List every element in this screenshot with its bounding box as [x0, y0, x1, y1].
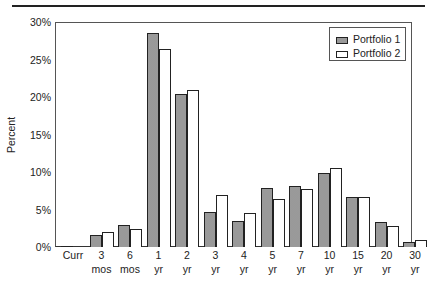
bar-portfolio-1: [61, 246, 73, 247]
x-tick-label: 3mos: [87, 248, 117, 276]
bar-portfolio-1: [204, 212, 216, 247]
bar-portfolio-2: [358, 197, 370, 247]
x-tick-label: 6mos: [115, 248, 145, 276]
y-axis-label: Percent: [5, 117, 17, 153]
x-tick-label: 1yr: [144, 248, 174, 276]
x-tick-label: 20yr: [372, 248, 402, 276]
y-tick-label: 10%: [20, 166, 51, 178]
hollow-swatch-icon: [336, 51, 348, 58]
x-tick-label: 4yr: [229, 248, 259, 276]
x-tick-label: 10yr: [315, 248, 345, 276]
bar-portfolio-2: [330, 168, 342, 247]
bar-portfolio-1: [147, 33, 159, 247]
bar-portfolio-2: [273, 199, 285, 247]
bar-portfolio-1: [175, 94, 187, 247]
bar-portfolio-2: [415, 240, 427, 247]
bar-portfolio-2: [130, 229, 142, 247]
bar-portfolio-1: [289, 186, 301, 247]
bar-portfolio-2: [244, 213, 256, 248]
legend-item-portfolio-2: Portfolio 2: [336, 47, 400, 59]
crosshatch-swatch-icon: [336, 37, 348, 44]
bar-portfolio-1: [375, 222, 387, 247]
y-tick-label: 15%: [20, 129, 51, 141]
x-tick-label: 15yr: [343, 248, 373, 276]
legend: Portfolio 1 Portfolio 2: [329, 27, 406, 61]
bar-portfolio-1: [232, 221, 244, 247]
bar-portfolio-1: [90, 235, 102, 247]
x-tick-label: 2yr: [172, 248, 202, 276]
y-tick-label: 30%: [20, 16, 51, 28]
bar-portfolio-2: [187, 90, 199, 247]
x-tick-label: 5yr: [258, 248, 288, 276]
y-tick-label: 25%: [20, 54, 51, 66]
top-rule: [12, 5, 425, 7]
y-tick-label: 0%: [20, 241, 51, 253]
bar-portfolio-1: [403, 242, 415, 247]
bar-portfolio-1: [346, 197, 358, 247]
bar-portfolio-2: [216, 195, 228, 248]
x-tick-label: 7yr: [286, 248, 316, 276]
legend-item-portfolio-1: Portfolio 1: [336, 33, 400, 45]
bar-portfolio-2: [387, 226, 399, 247]
bar-portfolio-1: [261, 188, 273, 247]
x-tick-label: Curr: [58, 248, 88, 276]
bar-portfolio-1: [318, 173, 330, 247]
y-tick-label: 20%: [20, 91, 51, 103]
bar-portfolio-2: [159, 49, 171, 247]
x-tick-label: 3yr: [201, 248, 231, 276]
y-tick-label: 5%: [20, 204, 51, 216]
bar-portfolio-2: [301, 189, 313, 247]
x-tick-label: 30yr: [400, 248, 430, 276]
bar-portfolio-2: [102, 232, 114, 247]
bar-portfolio-1: [118, 225, 130, 247]
